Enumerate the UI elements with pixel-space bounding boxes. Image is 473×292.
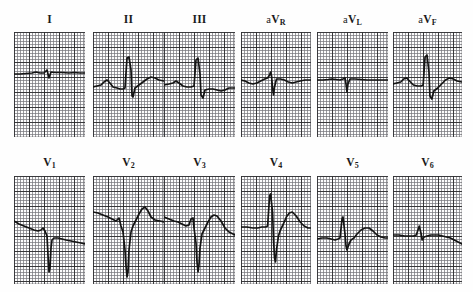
lead-label-main: V (193, 156, 202, 168)
lead-label-subscript: 4 (278, 161, 282, 170)
ecg-trace-path (14, 221, 85, 272)
ecg-waveform-v4 (241, 176, 311, 284)
ecg-waveform-i (14, 32, 85, 137)
lead-label-subscript: 1 (52, 161, 56, 170)
ecg-lead-panel-avr (241, 32, 311, 137)
ecg-waveform-v6 (393, 176, 462, 284)
lead-label-subscript: L (356, 18, 362, 27)
lead-label-main: I (47, 13, 52, 25)
ecg-lead-panel-v6 (393, 176, 462, 284)
ecg-lead-panel-v1 (14, 176, 85, 284)
ecg-sheet: IIIIIIaVRaVLaVFV1V2V3V4V5V6 (0, 0, 473, 292)
ecg-lead-panel-v5 (317, 176, 388, 284)
lead-label-subscript: 2 (131, 161, 135, 170)
ecg-waveform-avr (241, 32, 311, 137)
lead-label-avl: aVL (317, 14, 388, 26)
lead-label-main: V (421, 156, 430, 168)
ecg-lead-panel-v3 (164, 176, 235, 284)
lead-label-subscript: 5 (355, 161, 359, 170)
lead-label-v1: V1 (14, 157, 85, 169)
ecg-trace-path (93, 207, 164, 277)
lead-label-main: V (271, 13, 280, 25)
ecg-waveform-v3 (164, 176, 235, 284)
ecg-trace-path (164, 215, 235, 272)
ecg-lead-panel-ii (93, 32, 164, 137)
lead-label-main: V (43, 156, 52, 168)
ecg-lead-panel-avl (317, 32, 388, 137)
lead-label-v2: V2 (93, 157, 164, 169)
ecg-trace-path (393, 226, 462, 244)
lead-label-main: III (192, 13, 206, 25)
lead-label-ii: II (93, 14, 164, 26)
lead-label-avr: aVR (241, 14, 311, 26)
ecg-lead-panel-iii (164, 32, 235, 137)
lead-label-iii: III (164, 14, 235, 26)
lead-label-v4: V4 (241, 157, 311, 169)
lead-label-subscript: 6 (430, 161, 434, 170)
ecg-trace-path (241, 194, 311, 262)
ecg-waveform-avl (317, 32, 388, 137)
lead-label-v6: V6 (393, 157, 462, 169)
lead-label-main: V (122, 156, 131, 168)
ecg-waveform-ii (93, 32, 164, 137)
ecg-lead-panel-avf (393, 32, 462, 137)
ecg-trace-path (241, 72, 311, 95)
ecg-lead-panel-v4 (241, 176, 311, 284)
ecg-waveform-iii (164, 32, 235, 137)
lead-label-v3: V3 (164, 157, 235, 169)
ecg-waveform-v5 (317, 176, 388, 284)
ecg-lead-panel-i (14, 32, 85, 137)
lead-label-subscript: 3 (202, 161, 206, 170)
lead-label-subscript: F (432, 18, 437, 27)
lead-label-main: II (124, 13, 133, 25)
ecg-trace-path (317, 217, 388, 250)
lead-label-subscript: R (280, 18, 286, 27)
ecg-trace-path (164, 58, 235, 98)
lead-label-main: V (346, 156, 355, 168)
lead-label-main: V (270, 156, 279, 168)
lead-label-i: I (14, 14, 85, 26)
ecg-lead-panel-v2 (93, 176, 164, 284)
lead-label-v5: V5 (317, 157, 388, 169)
ecg-trace-path (14, 70, 85, 78)
ecg-waveform-v1 (14, 176, 85, 284)
lead-label-main: V (423, 13, 432, 25)
ecg-waveform-v2 (93, 176, 164, 284)
ecg-trace-path (93, 57, 164, 97)
ecg-trace-path (317, 78, 388, 92)
ecg-trace-path (393, 55, 462, 99)
ecg-waveform-avf (393, 32, 462, 137)
lead-label-avf: aVF (393, 14, 462, 26)
